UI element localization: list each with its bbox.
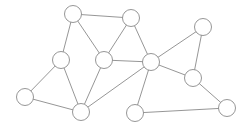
node-J bbox=[127, 105, 144, 122]
edge-J-K bbox=[135, 108, 227, 113]
node-K bbox=[219, 100, 236, 117]
edge-F-H bbox=[81, 62, 151, 112]
node-I bbox=[185, 70, 202, 87]
node-A bbox=[65, 6, 82, 23]
nodes-layer bbox=[17, 6, 236, 122]
node-F bbox=[73, 104, 90, 121]
node-C bbox=[53, 52, 70, 69]
node-H bbox=[143, 54, 160, 71]
node-D bbox=[96, 52, 113, 69]
graph-diagram bbox=[0, 0, 249, 126]
edge-H-G bbox=[151, 27, 203, 62]
graph-canvas bbox=[0, 0, 249, 126]
node-B bbox=[123, 10, 140, 27]
node-E bbox=[17, 89, 34, 106]
node-G bbox=[195, 19, 212, 36]
